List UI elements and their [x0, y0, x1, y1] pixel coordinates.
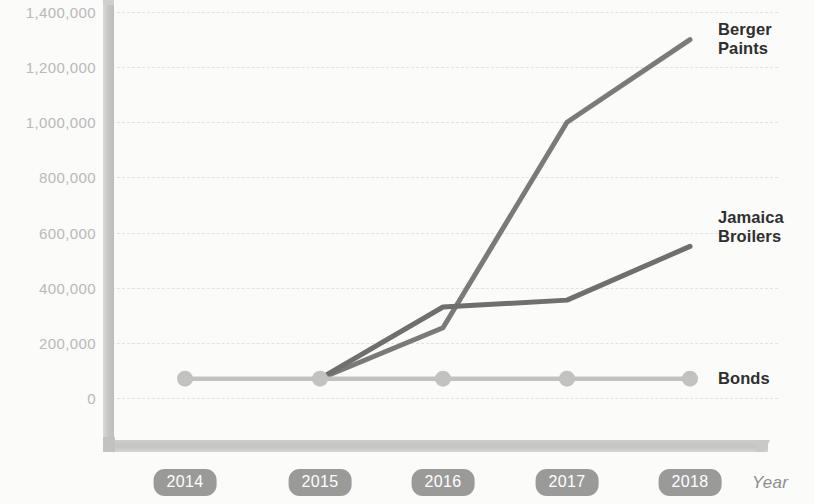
x-axis-tick-label-2015: 2015 [289, 469, 352, 496]
series-line [320, 40, 690, 379]
data-point-marker [435, 371, 451, 387]
x-axis-tick-label-2014: 2014 [154, 469, 217, 496]
data-point-marker [312, 371, 328, 387]
x-axis-tick-label-2017: 2017 [536, 469, 599, 496]
x-axis-title: Year [752, 473, 788, 493]
data-point-marker [682, 371, 698, 387]
series-paths [185, 40, 690, 379]
series-label-jamaica-broilers: Jamaica Broilers [718, 208, 784, 246]
series-label-bonds: Bonds [718, 369, 770, 388]
data-point-marker [559, 371, 575, 387]
series-label-berger-paints: Berger Paints [718, 20, 772, 58]
x-axis-tick-label-2018: 2018 [659, 469, 722, 496]
line-chart: 1,400,0001,200,0001,000,000800,000600,00… [0, 0, 814, 504]
plot-area [0, 0, 814, 504]
x-axis-tick-label-2016: 2016 [412, 469, 475, 496]
data-point-marker [177, 371, 193, 387]
series-line [320, 246, 690, 378]
